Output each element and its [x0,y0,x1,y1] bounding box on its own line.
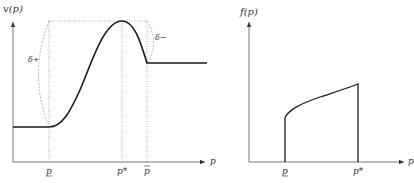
delta-minus-label: δ− [155,33,167,42]
left-dotted-guides [49,21,147,162]
delta-plus-label: δ+ [28,55,40,64]
left-x-axis-label: p [210,156,216,166]
right-y-axis-label: f(p) [239,6,258,17]
tick-p-upper: p [144,166,150,176]
tick-p-star: p* [117,166,128,176]
value-curve [13,21,207,127]
left-plot: v(p) δ+ δ− p p* p p [3,3,216,176]
left-y-axis-label: v(p) [3,3,23,14]
tick-p-lower: p [46,166,52,176]
figure: v(p) δ+ δ− p p* p p f(p) p p* p [0,0,414,183]
delta-minus-brace [147,21,154,63]
tick-p-star-right: p* [353,166,364,176]
right-plot: f(p) p p* p [239,6,414,176]
right-x-axis-label: p [408,156,414,166]
density-curve [285,84,358,162]
delta-plus-brace [39,21,50,127]
tick-p-lower-right: p [282,166,288,176]
